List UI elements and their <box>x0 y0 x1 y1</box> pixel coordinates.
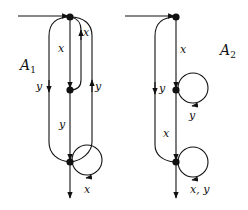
automata-diagram: A1 x x y y y x A <box>0 0 248 210</box>
a2-edge-label-loop-middle: y <box>188 109 196 122</box>
automaton-a1-label: A1 <box>18 57 36 75</box>
a1-state-middle <box>66 86 73 93</box>
a1-edge-label-x-down: x <box>58 42 65 55</box>
automaton-a2-label: A2 <box>218 42 236 60</box>
a1-edge-middle-top <box>70 17 81 90</box>
a2-self-loop-bottom-arrow <box>192 179 198 180</box>
a2-self-loop-bottom <box>178 147 208 177</box>
a1-edge-label-y-mid: y <box>58 118 66 131</box>
a2-edge-label-x-top: x <box>180 43 187 56</box>
a1-state-top <box>66 13 73 20</box>
a2-edge-label-loop-bottom: x, y <box>190 183 210 196</box>
a1-self-loop-bottom <box>72 145 102 175</box>
a1-self-loop-arrow <box>86 177 92 178</box>
a1-edge-label-y-left: y <box>35 80 43 93</box>
a1-edge-label-y-right: y <box>94 80 102 93</box>
a2-self-loop-middle-arrow <box>192 105 198 106</box>
a2-edge-label-y-left: y <box>158 82 166 95</box>
a2-state-bottom <box>172 158 179 165</box>
a1-state-bottom <box>66 158 73 165</box>
automaton-a2: A2 x y y x x, y <box>125 13 236 198</box>
a1-edge-label-x-up: x <box>83 26 90 39</box>
a1-edge-label-loop: x <box>84 183 91 196</box>
a2-self-loop-middle <box>178 73 208 103</box>
a2-state-top <box>172 13 179 20</box>
automaton-a1: A1 x x y y y x <box>18 13 102 198</box>
a2-edge-label-x-mid: x <box>163 127 170 140</box>
a2-state-middle <box>172 86 179 93</box>
